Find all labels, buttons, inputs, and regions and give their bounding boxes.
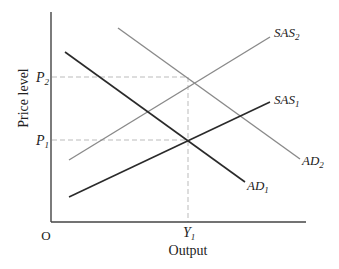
ad1-curve	[65, 52, 245, 182]
sas1-label: SAS1	[274, 92, 299, 109]
origin-label: O	[41, 228, 50, 243]
ad2-curve	[118, 28, 300, 159]
ad2-label: AD2	[301, 153, 324, 170]
sas2-label: SAS2	[274, 25, 300, 42]
ad1-label: AD1	[246, 178, 269, 195]
y-axis-label: Price level	[16, 68, 31, 128]
ad-as-diagram: Price level Output O P2 P1 Y1 SAS2 SAS1 …	[0, 0, 339, 269]
p1-label: P1	[35, 133, 49, 150]
sas1-curve	[69, 102, 270, 197]
sas2-curve	[69, 37, 270, 160]
p2-label: P2	[35, 70, 50, 87]
x-axis-label: Output	[169, 243, 208, 258]
y1-label: Y1	[183, 225, 195, 242]
